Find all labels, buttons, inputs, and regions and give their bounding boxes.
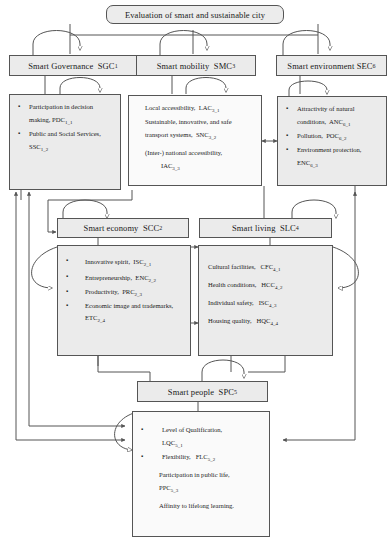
title-label: Evaluation of smart and sustainable city xyxy=(107,6,283,23)
economy-code-sub: 2 xyxy=(159,225,162,231)
list-item-label: Public and Social Services, SSC1_2 xyxy=(29,128,115,155)
mobility-header-text: Smart mobility xyxy=(157,61,210,71)
living-code: SLC xyxy=(280,223,296,233)
indicator-code: LAC3_1 xyxy=(199,104,220,111)
node-economy-header[interactable]: Smart economy SCC2 xyxy=(57,218,189,238)
list-item: ▪ Innovative spirit, ISC2_1 xyxy=(63,255,185,271)
list-item: Health conditions, HCC4_2 xyxy=(208,277,327,295)
bullet-icon: ▪ xyxy=(63,271,77,283)
bullet-icon: ▪ xyxy=(63,300,77,312)
list-item-label: Productivity, PRC2_3 xyxy=(77,286,185,300)
indicator-code: HCC4_2 xyxy=(261,281,282,288)
indicator-code: ENC2_2 xyxy=(135,274,156,281)
indicator-code: ANC6_1 xyxy=(329,118,350,125)
list-item-label: (Inter-) national accessibility, IAC3_3 xyxy=(145,147,256,174)
indicator-code: PDC1_1 xyxy=(52,116,72,123)
people-items: ▪ Level of Qualification, LQC5_1 ▪ Flexi… xyxy=(133,412,269,517)
list-item: ▪ Participation in decision making, PDC1… xyxy=(15,101,115,128)
list-item-label: Local accessibility, LAC3_1 xyxy=(145,102,256,116)
bullet-icon: ▪ xyxy=(63,286,77,298)
list-item: Affinity to lifelong learning. xyxy=(138,500,264,513)
list-item: ▪ Attractivity of natural conditions, AN… xyxy=(283,103,381,130)
indicator-code: PRC2_3 xyxy=(122,288,142,295)
environment-items: ▪ Attractivity of natural conditions, AN… xyxy=(278,97,386,175)
list-item-label: Cultural facilities, CFC4_1 xyxy=(208,259,327,277)
indicator-code: ENC6_3 xyxy=(297,159,318,166)
node-mobility-body[interactable]: Local accessibility, LAC3_1 Sustainable,… xyxy=(128,95,262,186)
indicator-code: POC6_2 xyxy=(326,132,346,139)
node-mobility-header[interactable]: Smart mobility SMC3 xyxy=(136,55,256,76)
list-item: Individual safety, ISC4_3 xyxy=(208,295,327,313)
bullet-icon: ▪ xyxy=(283,103,297,115)
environment-code: SEC xyxy=(357,61,373,71)
bullet-icon: ▪ xyxy=(63,255,77,267)
indicator-code: CFC4_1 xyxy=(261,263,281,270)
list-item-label: Attractivity of natural conditions, ANC6… xyxy=(297,103,381,130)
node-economy-body[interactable]: ▪ Innovative spirit, ISC2_1 ▪ Entreprene… xyxy=(57,245,191,356)
governance-header-text: Smart Governance xyxy=(28,61,93,71)
bullet-icon: ▪ xyxy=(283,144,297,156)
list-item: ▪ Environment protection, ENC6_3 xyxy=(283,144,381,171)
list-item: Participation in public life, PPC5_3 xyxy=(138,469,264,496)
list-item: ▪ Entrepreneurship, ENC2_2 xyxy=(63,271,185,287)
list-item: ▪ Flexibility, FLC5_2 xyxy=(138,451,264,465)
node-governance-header[interactable]: Smart Governance SGC1 xyxy=(9,55,137,76)
list-item-label: Individual safety, ISC4_3 xyxy=(208,295,327,313)
node-environment-body[interactable]: ▪ Attractivity of natural conditions, AN… xyxy=(277,96,387,186)
governance-code: SGC xyxy=(98,61,115,71)
list-item: ▪ Economic image and trademarks, ETC2_4 xyxy=(63,300,185,326)
list-item-label: Economic image and trademarks, ETC2_4 xyxy=(77,300,185,326)
living-header-text: Smart living xyxy=(232,223,275,233)
list-item-label: Innovative spirit, ISC2_1 xyxy=(77,255,185,271)
bullet-icon: ▪ xyxy=(15,101,29,113)
bullet-icon: ▪ xyxy=(138,424,152,436)
diagram-canvas: Evaluation of smart and sustainable city… xyxy=(0,0,387,547)
indicator-code: FLC5_2 xyxy=(196,453,216,460)
bullet-icon: ▪ xyxy=(15,128,29,140)
people-header-text: Smart people xyxy=(168,387,214,397)
environment-code-sub: 6 xyxy=(373,63,376,69)
environment-header-label: Smart environment SEC6 xyxy=(277,56,386,75)
indicator-code: IAC3_3 xyxy=(145,162,180,169)
governance-header-label: Smart Governance SGC1 xyxy=(10,56,136,75)
node-people-header[interactable]: Smart people SPC5 xyxy=(137,381,268,402)
list-item-label: Housing quality, HQC4_4 xyxy=(208,313,327,331)
list-item: (Inter-) national accessibility, IAC3_3 xyxy=(134,147,256,174)
bullet-icon: ▪ xyxy=(138,451,152,463)
economy-items: ▪ Innovative spirit, ISC2_1 ▪ Entreprene… xyxy=(58,246,190,330)
list-item-label: Entrepreneurship, ENC2_2 xyxy=(77,271,185,287)
node-living-body[interactable]: Cultural facilities, CFC4_1 Health condi… xyxy=(198,245,333,356)
mobility-header-label: Smart mobility SMC3 xyxy=(137,56,255,75)
list-item-label: Participation in decision making, PDC1_1 xyxy=(29,101,115,128)
people-code-sub: 5 xyxy=(234,389,237,395)
economy-header-label: Smart economy SCC2 xyxy=(58,219,188,237)
bullet-icon: ▪ xyxy=(283,130,297,142)
indicator-code: PPC5_3 xyxy=(159,484,178,491)
list-item: ▪ Productivity, PRC2_3 xyxy=(63,286,185,300)
indicator-code: ISC4_3 xyxy=(259,299,277,306)
indicator-code: ETC2_4 xyxy=(85,314,105,321)
list-item-label: Participation in public life, PPC5_3 xyxy=(149,469,264,496)
node-governance-body[interactable]: ▪ Participation in decision making, PDC1… xyxy=(9,94,121,190)
list-item: Sustainable, innovative, and safe transp… xyxy=(134,116,256,143)
node-environment-header[interactable]: Smart environment SEC6 xyxy=(276,55,387,76)
governance-code-sub: 1 xyxy=(115,63,118,69)
living-code-sub: 4 xyxy=(296,225,299,231)
list-item: ▪ Public and Social Services, SSC1_2 xyxy=(15,128,115,155)
indicator-code: SSC1_2 xyxy=(29,143,48,150)
economy-code: SCC xyxy=(143,223,159,233)
list-item: Housing quality, HQC4_4 xyxy=(208,313,327,331)
list-item: ▪ Level of Qualification, LQC5_1 xyxy=(138,424,264,451)
list-item-label: Level of Qualification, LQC5_1 xyxy=(152,424,264,451)
people-header-label: Smart people SPC5 xyxy=(138,382,267,401)
indicator-code: ISC2_1 xyxy=(133,258,151,265)
governance-items: ▪ Participation in decision making, PDC1… xyxy=(10,95,120,159)
node-people-body[interactable]: ▪ Level of Qualification, LQC5_1 ▪ Flexi… xyxy=(132,411,270,537)
people-code: SPC xyxy=(219,387,234,397)
economy-header-text: Smart economy xyxy=(84,223,139,233)
node-living-header[interactable]: Smart living SLC4 xyxy=(199,218,332,238)
list-item-label: Sustainable, innovative, and safe transp… xyxy=(145,116,256,143)
list-item: ▪ Pollution, POC6_2 xyxy=(283,130,381,144)
list-item-label: Affinity to lifelong learning. xyxy=(149,500,264,513)
list-item-label: Pollution, POC6_2 xyxy=(297,130,381,144)
